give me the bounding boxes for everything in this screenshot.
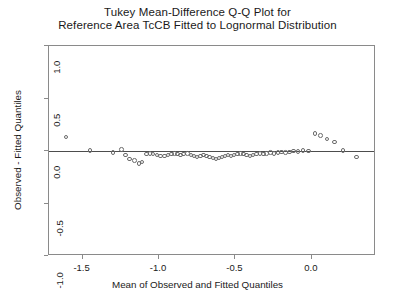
x-axis-tick-label: -0.5 xyxy=(226,262,242,273)
x-axis-tick xyxy=(234,255,235,259)
scatter-points-layer xyxy=(49,46,374,254)
y-axis-tick xyxy=(44,203,48,204)
chart-title-line-1: Tukey Mean-Difference Q-Q Plot for xyxy=(0,6,395,19)
chart-title: Tukey Mean-Difference Q-Q Plot for Refer… xyxy=(0,6,395,32)
data-point xyxy=(88,148,93,153)
y-axis-tick-label: -1.0 xyxy=(54,255,65,271)
y-axis-label-container: Observed - Fitted Quantiles xyxy=(10,45,24,255)
data-point xyxy=(354,155,359,160)
x-axis-tick xyxy=(158,255,159,259)
y-axis-tick-label: 0.5 xyxy=(51,98,62,111)
x-axis-tick-label: -1.0 xyxy=(150,262,166,273)
x-axis-label: Mean of Observed and Fitted Quantiles xyxy=(0,279,395,290)
y-axis-tick xyxy=(44,255,48,256)
x-axis-tick-label: -1.5 xyxy=(73,262,89,273)
chart-figure: Tukey Mean-Difference Q-Q Plot for Refer… xyxy=(0,0,395,305)
data-point xyxy=(341,148,346,153)
y-axis-tick xyxy=(44,45,48,46)
data-point xyxy=(332,140,337,145)
y-axis-tick-label: 1.0 xyxy=(51,45,62,58)
y-axis-tick xyxy=(44,98,48,99)
data-point xyxy=(64,135,69,140)
x-axis-tick xyxy=(82,255,83,259)
data-point xyxy=(301,148,306,153)
chart-title-line-2: Reference Area TcCB Fitted to Lognormal … xyxy=(0,19,395,32)
data-point xyxy=(119,147,124,152)
x-axis-tick xyxy=(311,255,312,259)
y-axis-tick-label: -0.5 xyxy=(54,203,65,219)
data-point xyxy=(318,133,323,138)
plot-area xyxy=(48,45,375,255)
x-axis-tick-label: 0.0 xyxy=(304,262,317,273)
y-axis-label: Observed - Fitted Quantiles xyxy=(12,90,23,210)
data-point xyxy=(140,160,145,165)
data-point xyxy=(127,157,132,162)
y-axis-tick-label: 0.0 xyxy=(51,150,62,163)
data-point xyxy=(111,150,116,155)
data-point xyxy=(313,131,318,136)
y-axis-tick xyxy=(44,150,48,151)
data-point xyxy=(325,137,330,142)
data-point xyxy=(296,149,301,154)
data-point xyxy=(306,149,311,154)
